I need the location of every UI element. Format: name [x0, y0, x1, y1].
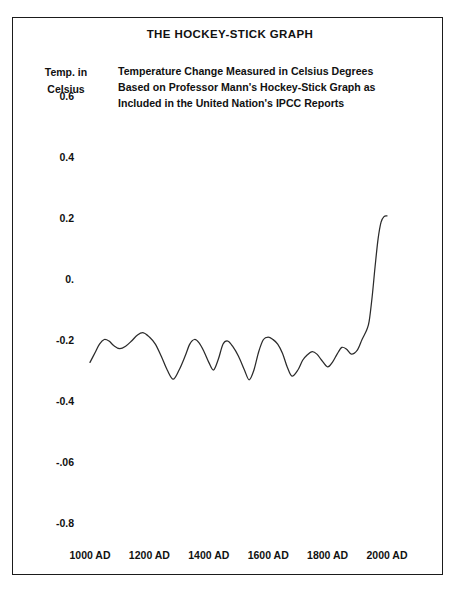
y-axis-caption-line-1: Temp. in: [26, 64, 106, 81]
y-tick-label: 0.4: [18, 151, 74, 163]
y-tick-label: 0.2: [18, 212, 74, 224]
x-tick-label: 1400 AD: [180, 549, 238, 561]
page-title: THE HOCKEY-STICK GRAPH: [0, 28, 460, 40]
x-tick-label: 1600 AD: [239, 549, 297, 561]
y-tick-label: -0.8: [18, 517, 74, 529]
chart-subtitle: Temperature Change Measured in Celsius D…: [118, 63, 418, 111]
subtitle-line-2: Based on Professor Mann's Hockey-Stick G…: [118, 79, 418, 95]
y-tick-label: -.06: [18, 456, 74, 468]
x-tick-label: 1200 AD: [120, 549, 178, 561]
y-tick-label: 0.: [18, 273, 74, 285]
hockey-stick-figure: THE HOCKEY-STICK GRAPH Temp. in Celsius …: [0, 0, 460, 592]
x-tick-label: 2000 AD: [358, 549, 416, 561]
y-tick-label: -0.4: [18, 395, 74, 407]
subtitle-line-3: Included in the United Nation's IPCC Rep…: [118, 95, 418, 111]
y-tick-label: -0.2: [18, 334, 74, 346]
y-tick-label: 0.6: [18, 90, 74, 102]
x-tick-label: 1000 AD: [61, 549, 119, 561]
x-tick-label: 1800 AD: [299, 549, 357, 561]
subtitle-line-1: Temperature Change Measured in Celsius D…: [118, 63, 418, 79]
